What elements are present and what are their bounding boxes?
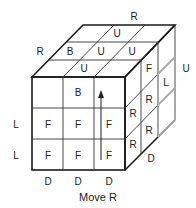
outer-label-left-row3: L [13, 150, 19, 161]
outer-label-top-left: R [36, 46, 43, 57]
top-label-r3c2: U [80, 63, 87, 74]
front-label-r3c2: F [75, 150, 81, 161]
right-label-r1c2: L [163, 77, 169, 88]
front-label-r2c1: F [45, 119, 51, 130]
up-arrow-icon [98, 90, 104, 160]
outer-label-bottom-col1: D [44, 176, 51, 187]
top-label-r2c2: U [97, 46, 104, 57]
rotated-slice [158, 57, 175, 137]
top-label-r1c2: U [113, 28, 120, 39]
outer-label-left-row2: L [13, 119, 19, 130]
outer-label-bottom-col3: D [105, 176, 112, 187]
front-label-r2c2: F [75, 119, 81, 130]
outer-label-bottom-col2: D [74, 176, 81, 187]
right-label-r3c1b: R [129, 139, 136, 150]
front-label-r3c1: F [45, 150, 51, 161]
right-label-r3c1: R [129, 108, 136, 119]
rubiks-cube-diagram: B F F F F F F U B U U U F L R R R R R R … [0, 0, 196, 208]
outer-label-right-side: U [182, 63, 189, 74]
front-label-r2c3: F [106, 119, 112, 130]
front-label-r1c2: B [75, 87, 82, 98]
top-label-r2c1: B [67, 46, 74, 57]
right-label-r1c1: F [146, 63, 152, 74]
caption: Move R [79, 191, 117, 203]
top-label-r2c3: U [128, 46, 135, 57]
outer-label-right-bottom: D [147, 153, 154, 164]
outer-label-top-back: R [130, 11, 137, 22]
right-label-r2c1: R [145, 94, 152, 105]
front-label-r3c3: F [106, 150, 112, 161]
right-label-r2c2: R [145, 125, 152, 136]
